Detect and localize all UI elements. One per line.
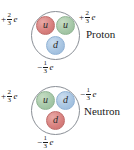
- neutron-quark-down-2: d: [46, 111, 65, 130]
- proton-charge-label-bottom: −13e: [37, 60, 54, 75]
- neutron-charge-left-denominator: 3: [7, 96, 13, 104]
- proton-quark-down-1-label: d: [53, 40, 58, 50]
- neutron-charge-label-left: +23e: [1, 89, 18, 104]
- quark-composition-diagram: u u d +23e +23e −13e Proton u d d: [0, 0, 134, 150]
- proton-charge-right-unit: e: [92, 12, 96, 22]
- proton-charge-bottom-denominator: 3: [43, 67, 49, 75]
- neutron-charge-bottom-denominator: 3: [43, 142, 49, 150]
- neutron-charge-right-denominator: 3: [86, 94, 92, 102]
- proton-charge-bottom-fraction: 13: [43, 60, 49, 75]
- neutron-charge-bottom-sign: −: [37, 137, 42, 147]
- neutron-charge-left-sign: +: [1, 91, 6, 101]
- neutron-quark-up-1-label: u: [43, 95, 48, 105]
- proton-quark-up-2: u: [56, 16, 75, 35]
- neutron-quark-up-1: u: [36, 91, 55, 110]
- proton-charge-bottom-unit: e: [50, 62, 54, 72]
- proton-name-label: Proton: [86, 29, 115, 40]
- neutron-charge-label-right: −13e: [80, 87, 97, 102]
- neutron-quark-down-2-label: d: [53, 115, 58, 125]
- neutron-charge-right-numerator: 1: [86, 87, 92, 94]
- proton-charge-left-unit: e: [14, 14, 18, 24]
- proton-charge-label-right: +23e: [79, 10, 96, 25]
- proton-charge-left-numerator: 2: [7, 12, 13, 19]
- neutron-charge-bottom-unit: e: [50, 137, 54, 147]
- proton-charge-label-left: +23e: [1, 12, 18, 27]
- proton-charge-bottom-numerator: 1: [43, 60, 49, 67]
- proton-quark-up-1-label: u: [43, 20, 48, 30]
- proton-quark-up-2-label: u: [63, 20, 68, 30]
- neutron-charge-right-unit: e: [93, 89, 97, 99]
- nucleon-neutron: u d d +23e −13e −13e Neutron: [0, 75, 134, 150]
- neutron-quark-down-1: d: [56, 91, 75, 110]
- neutron-charge-left-fraction: 23: [7, 89, 13, 104]
- proton-charge-right-denominator: 3: [85, 17, 91, 25]
- neutron-charge-bottom-numerator: 1: [43, 135, 49, 142]
- neutron-charge-bottom-fraction: 13: [43, 135, 49, 150]
- proton-charge-left-denominator: 3: [7, 19, 13, 27]
- proton-charge-right-sign: +: [79, 12, 84, 22]
- neutron-charge-left-unit: e: [14, 91, 18, 101]
- proton-charge-right-numerator: 2: [85, 10, 91, 17]
- neutron-charge-left-numerator: 2: [7, 89, 13, 96]
- proton-quark-up-1: u: [36, 16, 55, 35]
- proton-quark-down-1: d: [46, 36, 65, 55]
- proton-charge-right-fraction: 23: [85, 10, 91, 25]
- neutron-charge-right-sign: −: [80, 89, 85, 99]
- neutron-name-label: Neutron: [84, 106, 120, 117]
- proton-charge-left-fraction: 23: [7, 12, 13, 27]
- neutron-quark-down-1-label: d: [63, 95, 68, 105]
- nucleon-proton: u u d +23e +23e −13e Proton: [0, 0, 134, 75]
- neutron-charge-right-fraction: 13: [86, 87, 92, 102]
- proton-charge-bottom-sign: −: [37, 62, 42, 72]
- neutron-charge-label-bottom: −13e: [37, 135, 54, 150]
- proton-charge-left-sign: +: [1, 14, 6, 24]
